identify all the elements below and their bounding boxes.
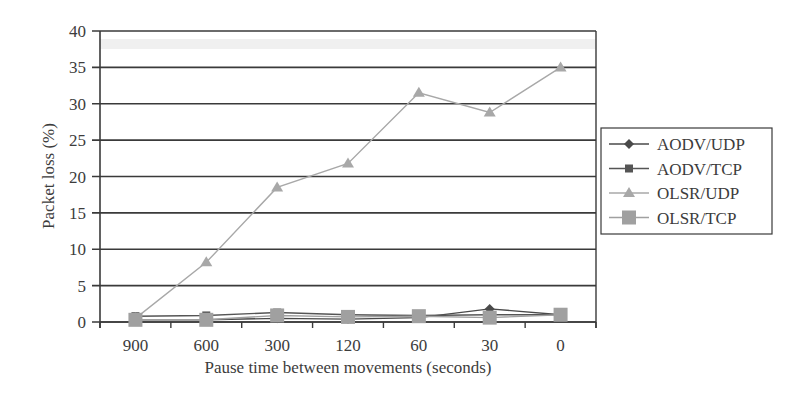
x-tick-label: 30 xyxy=(481,336,498,355)
x-tick-label: 60 xyxy=(410,336,427,355)
x-axis-ticks: 90060030012060300 xyxy=(100,322,596,355)
y-tick-label: 10 xyxy=(69,240,86,259)
y-tick-label: 25 xyxy=(69,131,86,150)
data-series xyxy=(128,61,567,326)
y-tick-label: 35 xyxy=(69,58,86,77)
legend-label: AODV/TCP xyxy=(657,160,742,179)
gridlines xyxy=(92,31,596,322)
x-tick-label: 120 xyxy=(335,336,361,355)
series-olsr-udp xyxy=(129,61,566,322)
y-axis-title: Packet loss (%) xyxy=(39,123,58,229)
legend-label: OLSR/TCP xyxy=(657,209,736,228)
y-tick-label: 30 xyxy=(69,95,86,114)
legend-label: OLSR/UDP xyxy=(657,184,739,203)
legend: AODV/UDPAODV/TCPOLSR/UDPOLSR/TCP xyxy=(601,128,772,234)
y-tick-label: 40 xyxy=(69,22,86,41)
y-tick-label: 20 xyxy=(69,168,86,187)
legend-label: AODV/UDP xyxy=(657,135,745,154)
x-tick-label: 300 xyxy=(264,336,290,355)
x-tick-label: 900 xyxy=(123,336,149,355)
x-tick-label: 0 xyxy=(556,336,565,355)
x-tick-label: 600 xyxy=(194,336,220,355)
y-tick-label: 15 xyxy=(69,204,86,223)
y-axis-ticks: 0510152025303540 xyxy=(69,22,86,332)
y-tick-label: 5 xyxy=(78,277,87,296)
y-tick-label: 0 xyxy=(78,313,87,332)
axes xyxy=(100,31,596,328)
x-axis-title: Pause time between movements (seconds) xyxy=(204,358,491,377)
line-chart: 0510152025303540 90060030012060300 Packe… xyxy=(0,0,812,407)
